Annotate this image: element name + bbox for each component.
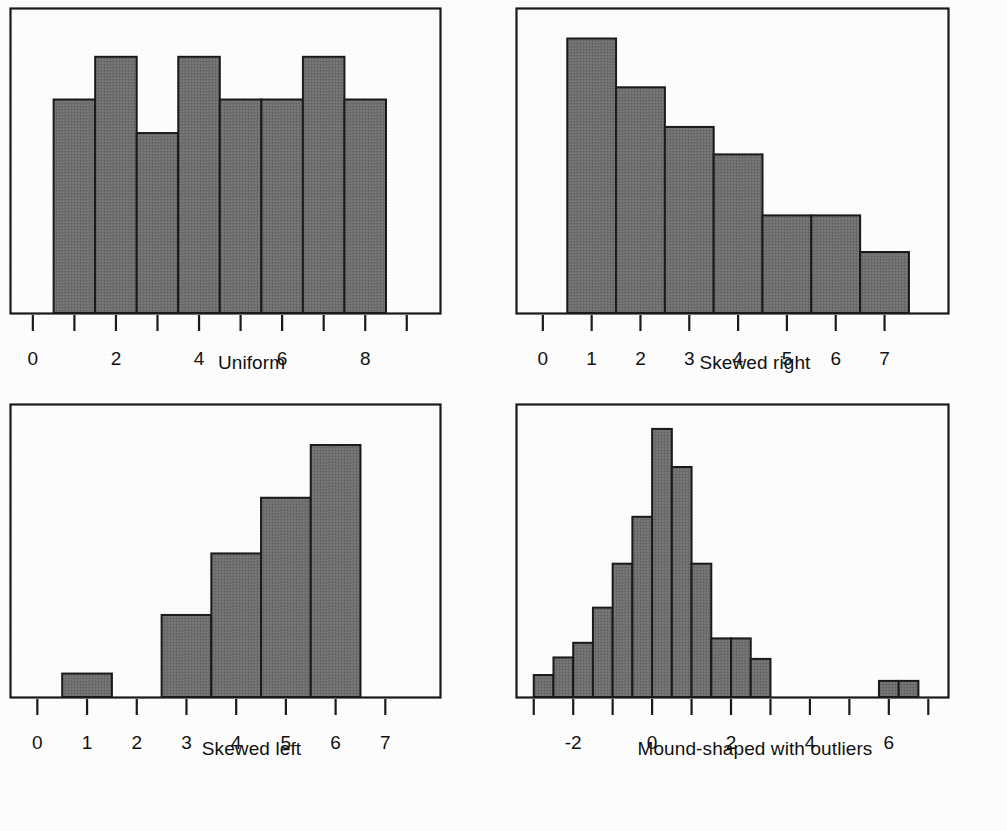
histogram-bar <box>303 57 345 313</box>
histogram-bar <box>652 429 672 697</box>
histogram-bar <box>616 87 665 313</box>
histogram-bar <box>137 133 179 313</box>
histogram-bar <box>672 467 692 697</box>
histogram-bar <box>261 100 303 314</box>
histogram-bar <box>692 564 712 697</box>
histogram-bar <box>162 615 212 697</box>
histogram-bar <box>899 681 919 697</box>
caption-skewed-left: Skewed left <box>0 738 503 760</box>
histogram-bar <box>593 608 613 697</box>
histogram-bars <box>534 429 919 697</box>
chart-uniform: 02468 <box>0 0 503 398</box>
histogram-bar <box>711 638 731 697</box>
histogram-bar <box>178 57 220 313</box>
panel-mound-shaped: -20246 Mound-shaped with outliers <box>503 398 1007 831</box>
chart-mound-shaped: -20246 <box>503 398 1007 831</box>
panel-uniform: 02468 Uniform <box>0 0 503 398</box>
histogram-bars <box>62 445 360 697</box>
caption-uniform: Uniform <box>0 352 503 374</box>
histogram-bar <box>714 154 763 313</box>
panel-skewed-right: 01234567 Skewed right <box>503 0 1007 398</box>
histogram-bar <box>344 100 386 314</box>
histogram-bar <box>879 681 899 697</box>
histogram-bar <box>62 674 112 697</box>
histogram-bar <box>95 57 137 313</box>
histogram-bars <box>54 57 386 313</box>
histogram-bars <box>567 39 909 314</box>
histogram-bar <box>261 498 311 697</box>
histogram-bar <box>632 517 652 697</box>
caption-mound-shaped: Mound-shaped with outliers <box>503 738 1007 760</box>
histogram-bar <box>54 100 96 314</box>
histogram-bar <box>534 675 554 697</box>
histogram-bar <box>573 643 593 697</box>
histogram-bar <box>665 127 714 313</box>
histogram-bar <box>613 564 633 697</box>
histogram-bar <box>311 445 361 697</box>
histogram-bar <box>731 638 751 697</box>
histogram-bar <box>763 215 812 313</box>
histogram-bar <box>751 659 771 697</box>
histogram-bar <box>811 215 860 313</box>
histogram-bar <box>860 252 909 313</box>
chart-skewed-left: 01234567 <box>0 398 503 831</box>
chart-skewed-right: 01234567 <box>503 0 1007 398</box>
histogram-bar <box>553 657 573 697</box>
caption-skewed-right: Skewed right <box>503 352 1007 374</box>
histogram-bar <box>211 553 261 697</box>
histogram-bar <box>567 39 616 314</box>
histogram-bar <box>220 100 262 314</box>
panel-skewed-left: 01234567 Skewed left <box>0 398 503 831</box>
histogram-figure-grid: 02468 Uniform 01234567 Skewed right 0123… <box>0 0 1007 831</box>
